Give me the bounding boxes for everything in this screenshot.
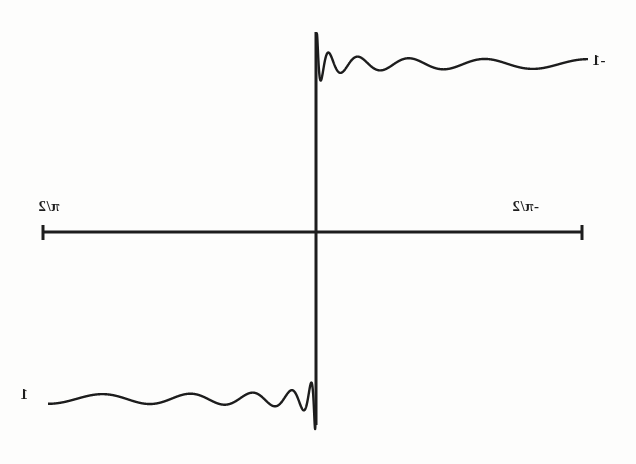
y-axis-label-upper: -1 — [592, 52, 606, 69]
axes-group — [42, 32, 583, 425]
x-axis-label-left: π/2 — [38, 198, 59, 215]
figure-page: π/2 -π/2 -1 1 — [0, 0, 636, 464]
y-axis-label-lower: 1 — [20, 386, 28, 403]
plot-canvas — [0, 0, 636, 464]
waveform-upper-branch — [317, 34, 589, 81]
x-axis-label-right: -π/2 — [512, 198, 539, 215]
waveform-lower-branch — [48, 383, 316, 429]
gibbs-phenomenon-figure: π/2 -π/2 -1 1 — [0, 0, 636, 464]
